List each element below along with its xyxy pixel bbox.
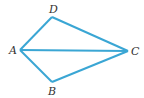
segment-ac xyxy=(20,50,128,51)
segment-ad xyxy=(20,17,52,50)
segment-ba xyxy=(20,50,52,82)
kite-diagram: D A B C xyxy=(0,0,144,98)
vertex-label-c: C xyxy=(131,45,140,58)
vertex-label-a: A xyxy=(8,44,17,57)
segment-cb xyxy=(52,51,128,82)
segment-dc xyxy=(52,17,128,51)
vertex-label-b: B xyxy=(47,85,56,98)
vertex-label-d: D xyxy=(48,3,58,16)
